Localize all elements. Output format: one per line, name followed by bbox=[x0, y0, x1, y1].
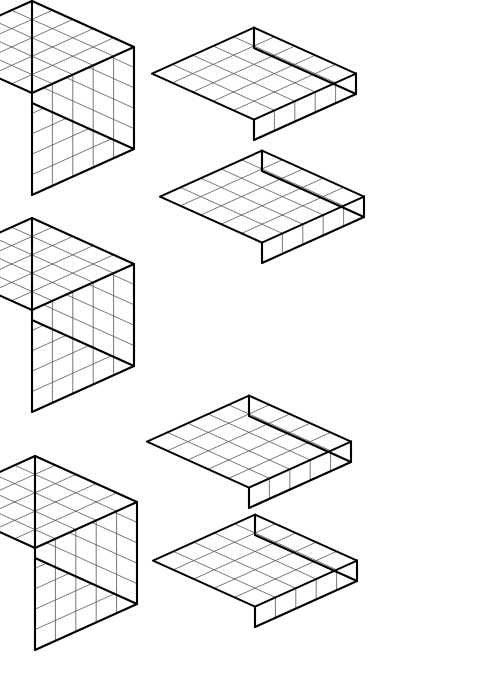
flat-slab-bottom-right bbox=[153, 515, 357, 627]
large-cube-top-left bbox=[0, 1, 134, 195]
base-ten-blocks-figure bbox=[0, 0, 483, 679]
flat-slab-lower-middle-right bbox=[147, 396, 351, 508]
flat-slab-top-right bbox=[152, 28, 356, 140]
large-cube-middle-left bbox=[0, 218, 134, 412]
large-cube-bottom-left bbox=[0, 456, 137, 650]
flat-slab-upper-middle-right bbox=[160, 151, 364, 263]
